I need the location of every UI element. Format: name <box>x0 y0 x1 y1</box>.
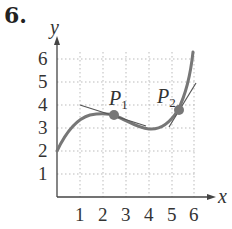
svg-text:1: 1 <box>38 163 48 184</box>
svg-text:6: 6 <box>38 48 48 69</box>
point-p1-label: P1 <box>108 87 128 112</box>
x-axis-arrow-icon <box>207 194 216 200</box>
svg-text:6: 6 <box>189 204 199 225</box>
x-axis-label: x <box>217 185 227 207</box>
svg-text:4: 4 <box>38 94 48 115</box>
svg-text:4: 4 <box>144 204 154 225</box>
svg-text:1: 1 <box>75 204 85 225</box>
point-p1 <box>109 110 119 120</box>
svg-text:5: 5 <box>38 71 48 92</box>
point-p2-label: P2 <box>156 85 176 110</box>
svg-text:3: 3 <box>38 117 48 138</box>
svg-text:2: 2 <box>38 140 48 161</box>
x-tick-labels: 1 2 3 4 5 6 <box>75 204 199 225</box>
grid <box>57 52 196 197</box>
chart: y x 6 5 4 3 2 1 1 2 3 4 5 6 P1 P2 <box>0 0 232 229</box>
y-tick-labels: 6 5 4 3 2 1 <box>38 48 48 184</box>
svg-text:2: 2 <box>98 204 108 225</box>
svg-text:5: 5 <box>167 204 177 225</box>
svg-text:3: 3 <box>121 204 131 225</box>
y-axis-label: y <box>48 16 59 39</box>
